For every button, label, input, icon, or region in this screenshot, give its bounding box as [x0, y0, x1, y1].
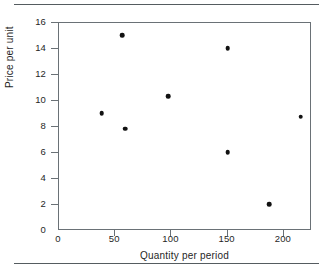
y-axis-tick	[51, 74, 58, 75]
y-axis-tick	[51, 126, 58, 127]
y-axis-tick	[51, 48, 58, 49]
y-axis-title: Price per unit	[4, 0, 15, 88]
bottom-divider-rule	[14, 263, 319, 264]
y-axis-tick	[51, 152, 58, 153]
x-axis-tick-label: 100	[150, 234, 190, 244]
scatter-plot-figure: 0246810121416 050100150200 Quantity per …	[0, 0, 333, 275]
y-axis-tick-label: 2	[6, 199, 46, 209]
x-axis-tick-label: 150	[207, 234, 247, 244]
plot-frame	[58, 22, 311, 230]
x-axis-tick-label: 0	[38, 234, 78, 244]
top-divider-rule	[14, 4, 319, 5]
y-axis-tick-label: 8	[6, 121, 46, 131]
y-axis-tick	[51, 100, 58, 101]
y-axis-tick	[51, 178, 58, 179]
y-axis-tick-label: 6	[6, 147, 46, 157]
x-axis-tick-label: 50	[94, 234, 134, 244]
x-axis-title: Quantity per period	[58, 250, 311, 261]
y-axis-tick	[51, 204, 58, 205]
y-axis-tick-label: 10	[6, 95, 46, 105]
x-axis-tick-label: 200	[263, 234, 303, 244]
y-axis-tick	[51, 22, 58, 23]
y-axis-tick-label: 4	[6, 173, 46, 183]
